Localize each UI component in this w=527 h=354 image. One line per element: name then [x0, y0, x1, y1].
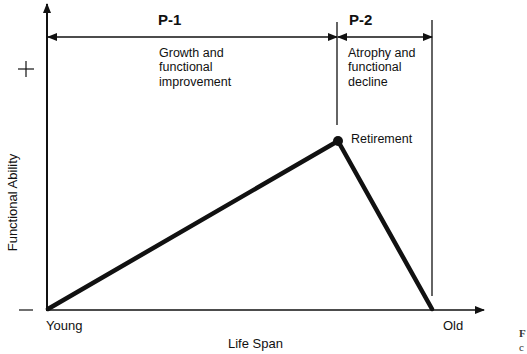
phase-p1-label: P-1 — [158, 11, 181, 28]
retirement-point — [333, 136, 343, 146]
p2-desc-line: Atrophy and — [348, 46, 415, 60]
p1-desc-line: Growth and — [159, 46, 231, 60]
x-axis-label: Life Span — [228, 337, 283, 352]
x-start-label: Young — [46, 319, 82, 334]
retirement-label: Retirement — [351, 132, 412, 146]
p1-desc-line: improvement — [159, 75, 231, 89]
p1-desc-line: functional — [159, 60, 231, 74]
caption-fragment: c — [519, 341, 524, 354]
diagram-graphics — [0, 0, 527, 354]
phase-p1-description: Growth and functional improvement — [159, 46, 231, 89]
caption-fragment: F — [519, 327, 526, 340]
functional-ability-line — [48, 141, 432, 309]
phase-p2-description: Atrophy and functional decline — [348, 46, 415, 89]
p2-desc-line: functional — [348, 60, 415, 74]
phase-p2-label: P-2 — [349, 11, 372, 28]
p2-desc-line: decline — [348, 75, 415, 89]
x-end-label: Old — [443, 319, 463, 334]
functional-ability-diagram: P-1 Growth and functional improvement P-… — [0, 0, 527, 354]
y-axis-label: Functional Ability — [5, 153, 20, 253]
